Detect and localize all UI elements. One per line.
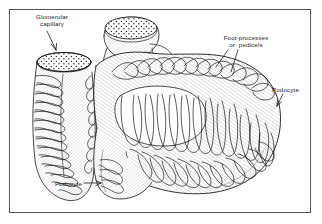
label-foot-processes-line1: Foot-processes: [224, 34, 269, 41]
label-podocyte-bottom: Podocyte: [55, 180, 82, 187]
figure-panel: Glomerularcapillary Foot-processesor ped…: [0, 0, 322, 224]
label-glomerular-capillary-line2: capillary: [40, 20, 64, 27]
label-foot-processes-line2: or pedicels: [229, 41, 262, 48]
label-podocyte-right: Podocyte: [272, 86, 299, 93]
label-foot-processes: Foot-processesor pedicels: [215, 34, 277, 49]
leader-glomerular-capillary: [47, 31, 56, 50]
label-glomerular-capillary: Glomerularcapillary: [26, 13, 78, 28]
left-capillary: [33, 53, 96, 201]
label-glomerular-capillary-line1: Glomerular: [36, 13, 68, 20]
